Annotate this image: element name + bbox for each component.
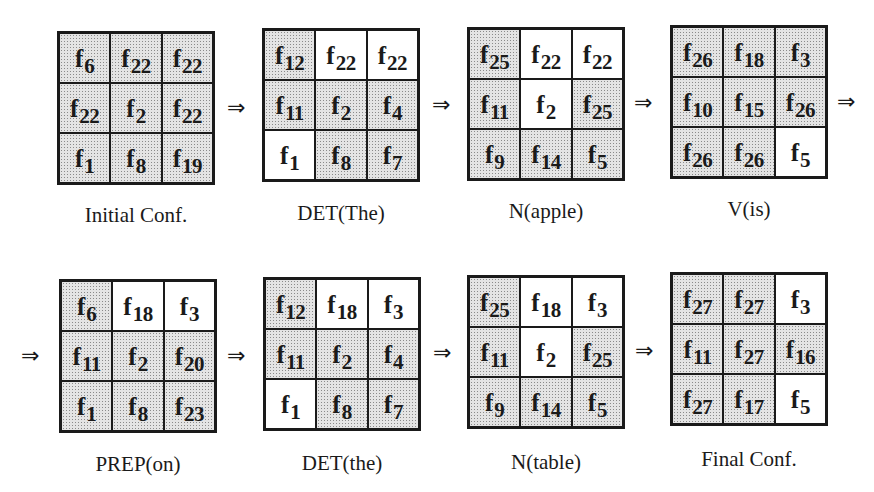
cell-feature-letter: f [175,344,183,369]
grid-cell-shaded: f4 [369,330,418,378]
cell-feature-letter: f [180,294,188,319]
arrow-icon: ⇒ [21,345,39,367]
grid-cell-shaded: f19 [163,134,212,182]
grid-cell-shaded: f8 [111,134,160,182]
cell-feature-letter: f [786,337,794,362]
cell-feature-subscript: 1 [84,156,94,177]
config-grid-det-the-cap: f12f22f22f11f2f4f1f8f7 [262,28,420,182]
grid-cell-shaded: f12 [265,31,314,79]
cell-feature-letter: f [531,390,539,415]
grid-cell-shaded: f11 [470,80,519,128]
cell-feature-letter: f [77,294,85,319]
cell-feature-letter: f [684,337,692,362]
grid-cell-unshaded: f1 [265,131,314,179]
grid-cell-unshaded: f22 [521,30,570,78]
cell-feature-letter: f [73,344,81,369]
cell-feature-subscript: 25 [489,52,509,73]
cell-feature-subscript: 18 [337,302,357,323]
cell-feature-letter: f [791,140,799,165]
cell-feature-letter: f [378,43,386,68]
config-grid-n-table: f25f18f3f11f2f25f9f14f5 [467,275,625,429]
cell-feature-letter: f [331,143,339,168]
caption-det-the-cap: DET(The) [241,201,441,226]
cell-feature-subscript: 12 [284,53,304,74]
cell-feature-letter: f [126,146,134,171]
cell-feature-subscript: 3 [597,300,607,321]
cell-feature-subscript: 1 [86,404,96,425]
cell-feature-letter: f [583,42,591,67]
cell-feature-letter: f [791,287,799,312]
cell-feature-letter: f [791,40,799,65]
grid-cell-shaded: f22 [163,84,212,132]
arrow-icon: ⇒ [227,345,245,367]
cell-feature-subscript: 27 [692,397,712,418]
grid-cell-shaded: f22 [60,84,109,132]
cell-feature-letter: f [480,290,488,315]
cell-feature-subscript: 27 [744,347,764,368]
cell-feature-letter: f [280,143,288,168]
grid-cell-shaded: f12 [266,280,315,328]
grid-cell-shaded: f10 [673,78,722,126]
cell-feature-letter: f [683,287,691,312]
cell-feature-subscript: 19 [182,156,202,177]
grid-cell-shaded: f26 [776,78,825,126]
cell-feature-subscript: 22 [79,106,99,127]
grid-cell-unshaded: f22 [368,31,417,79]
grid-cell-shaded: f6 [62,282,111,330]
cell-feature-subscript: 14 [541,400,561,421]
cell-feature-subscript: 22 [182,106,202,127]
cell-feature-subscript: 18 [541,300,561,321]
cell-feature-letter: f [683,40,691,65]
cell-feature-letter: f [327,292,335,317]
cell-feature-subscript: 2 [138,354,148,375]
grid-cell-shaded: f11 [470,328,519,376]
cell-feature-letter: f [331,93,339,118]
cell-feature-letter: f [583,92,591,117]
cell-feature-subscript: 22 [182,56,202,77]
cell-feature-letter: f [531,142,539,167]
cell-feature-subscript: 6 [84,56,94,77]
grid-cell-shaded: f11 [266,330,315,378]
cell-feature-letter: f [332,392,340,417]
cell-feature-letter: f [276,93,284,118]
cell-feature-letter: f [583,340,591,365]
grid-cell-unshaded: f22 [316,31,365,79]
grid-cell-shaded: f14 [521,378,570,426]
cell-feature-subscript: 2 [546,350,556,371]
cell-feature-subscript: 11 [693,347,712,368]
config-grid-initial: f6f22f22f22f2f22f1f8f19 [57,31,215,185]
cell-feature-subscript: 2 [342,352,352,373]
cell-feature-letter: f [734,337,742,362]
cell-feature-subscript: 5 [597,152,607,173]
cell-feature-letter: f [536,92,544,117]
cell-feature-subscript: 12 [285,302,305,323]
grid-cell-shaded: f11 [265,81,314,129]
caption-initial-conf: Initial Conf. [36,203,236,228]
grid-cell-shaded: f26 [673,128,722,176]
caption-prep-on: PREP(on) [38,452,238,477]
cell-feature-letter: f [683,140,691,165]
caption-final-conf: Final Conf. [649,447,849,472]
diagram-canvas: f6f22f22f22f2f22f1f8f19 Initial Conf. ⇒ … [0,0,874,492]
cell-feature-letter: f [683,90,691,115]
grid-cell-unshaded: f22 [573,30,622,78]
cell-feature-subscript: 3 [800,50,810,71]
grid-cell-unshaded: f3 [369,280,418,328]
cell-feature-subscript: 27 [692,297,712,318]
cell-feature-subscript: 25 [592,350,612,371]
cell-feature-subscript: 22 [387,53,407,74]
grid-cell-shaded: f14 [521,130,570,178]
cell-feature-letter: f [481,340,489,365]
cell-feature-letter: f [588,290,596,315]
cell-feature-letter: f [128,394,136,419]
cell-feature-letter: f [786,90,794,115]
cell-feature-letter: f [480,42,488,67]
cell-feature-subscript: 1 [289,153,299,174]
grid-cell-shaded: f18 [724,28,773,76]
grid-cell-shaded: f9 [470,378,519,426]
cell-feature-subscript: 4 [392,103,402,124]
grid-cell-shaded: f27 [724,275,773,323]
cell-feature-subscript: 11 [490,102,509,123]
cell-feature-subscript: 20 [184,354,204,375]
grid-cell-shaded: f22 [111,34,160,82]
